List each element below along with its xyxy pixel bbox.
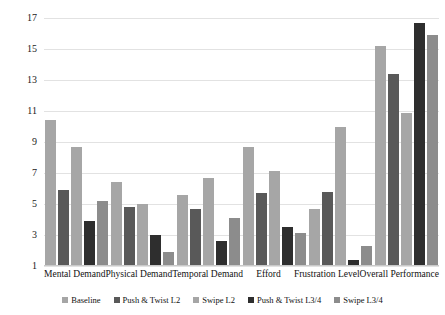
bar-group <box>241 18 307 266</box>
y-axis-tick-label: 1 <box>32 261 37 271</box>
bar <box>45 120 56 266</box>
bar <box>111 182 122 266</box>
y-axis-tick-label: 17 <box>27 13 37 23</box>
bar <box>414 23 425 266</box>
x-axis-label: Mental Demand <box>44 268 105 284</box>
x-axis-label: Frustration Level <box>294 268 360 284</box>
bar <box>150 235 161 266</box>
bar <box>243 147 254 266</box>
chart-legend: BaselinePush & Twist L2Swipe L2Push & Tw… <box>0 293 445 307</box>
bar <box>84 221 95 266</box>
legend-swatch-icon <box>334 297 340 303</box>
legend-swatch-icon <box>193 297 199 303</box>
bar-group <box>307 18 373 266</box>
y-axis-tick-label: 15 <box>27 44 37 54</box>
y-axis-tick-label: 9 <box>32 137 37 147</box>
bar <box>427 35 438 266</box>
bar <box>375 46 386 266</box>
bar <box>229 218 240 266</box>
bar <box>163 252 174 266</box>
bar <box>295 233 306 266</box>
x-axis-line <box>44 265 439 266</box>
bar-group <box>373 18 439 266</box>
bar <box>335 127 346 267</box>
y-axis: 1357911131517 <box>0 18 44 266</box>
bar-group <box>176 18 242 266</box>
bar <box>137 204 148 266</box>
legend-swatch-icon <box>114 297 120 303</box>
legend-label: Swipe L2 <box>202 295 235 305</box>
y-axis-tick-label: 5 <box>32 199 37 209</box>
legend-label: Baseline <box>71 295 100 305</box>
bar-chart: 1357911131517 Mental DemandPhysical Dema… <box>0 0 445 315</box>
gridline <box>44 266 439 267</box>
legend-item[interactable]: Swipe L2 <box>193 295 235 305</box>
bar <box>401 113 412 266</box>
x-axis-labels: Mental DemandPhysical DemandTemporal Dem… <box>44 268 439 284</box>
legend-swatch-icon <box>62 297 68 303</box>
bar <box>216 241 227 266</box>
legend-item[interactable]: Push & Twist L2 <box>114 295 181 305</box>
bar <box>124 207 135 266</box>
bar-group <box>110 18 176 266</box>
legend-label: Swipe L3/4 <box>343 295 382 305</box>
legend-item[interactable]: Swipe L3/4 <box>334 295 382 305</box>
y-axis-tick-label: 3 <box>32 230 37 240</box>
bar <box>71 147 82 266</box>
bar <box>177 195 188 266</box>
bar <box>256 193 267 266</box>
bar <box>58 190 69 266</box>
bar-group <box>44 18 110 266</box>
bar <box>309 209 320 266</box>
y-axis-tick-label: 7 <box>32 168 37 178</box>
y-axis-tick-label: 13 <box>27 75 37 85</box>
bar <box>282 227 293 266</box>
bar <box>190 209 201 266</box>
bar <box>322 192 333 266</box>
legend-item[interactable]: Baseline <box>62 295 100 305</box>
legend-label: Push & Twist L3/4 <box>257 295 321 305</box>
bar <box>388 74 399 266</box>
legend-item[interactable]: Push & Twist L3/4 <box>248 295 321 305</box>
bar <box>269 171 280 266</box>
x-axis-label: Temporal Demand <box>172 268 243 284</box>
x-axis-label: Physical Demand <box>105 268 172 284</box>
bar <box>97 201 108 266</box>
legend-label: Push & Twist L2 <box>123 295 181 305</box>
y-axis-tick-label: 11 <box>27 106 37 116</box>
bar-groups <box>44 18 439 266</box>
bar <box>203 178 214 266</box>
x-axis-label: Overall Performance <box>360 268 439 284</box>
bar <box>361 246 372 266</box>
legend-swatch-icon <box>248 297 254 303</box>
x-axis-label: Efford <box>243 268 294 284</box>
plot-area <box>44 18 439 266</box>
